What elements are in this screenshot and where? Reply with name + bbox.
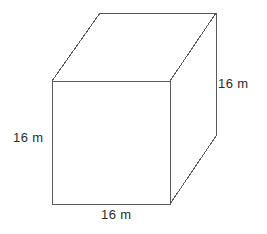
- cube-diagram-canvas: 16 m 16 m 16 m: [0, 0, 267, 234]
- cube-drawing: [0, 0, 267, 234]
- cube-front-face: [52, 81, 170, 204]
- dimension-label-width: 16 m: [101, 208, 132, 222]
- dimension-label-height: 16 m: [13, 131, 44, 145]
- dimension-label-depth: 16 m: [218, 77, 249, 91]
